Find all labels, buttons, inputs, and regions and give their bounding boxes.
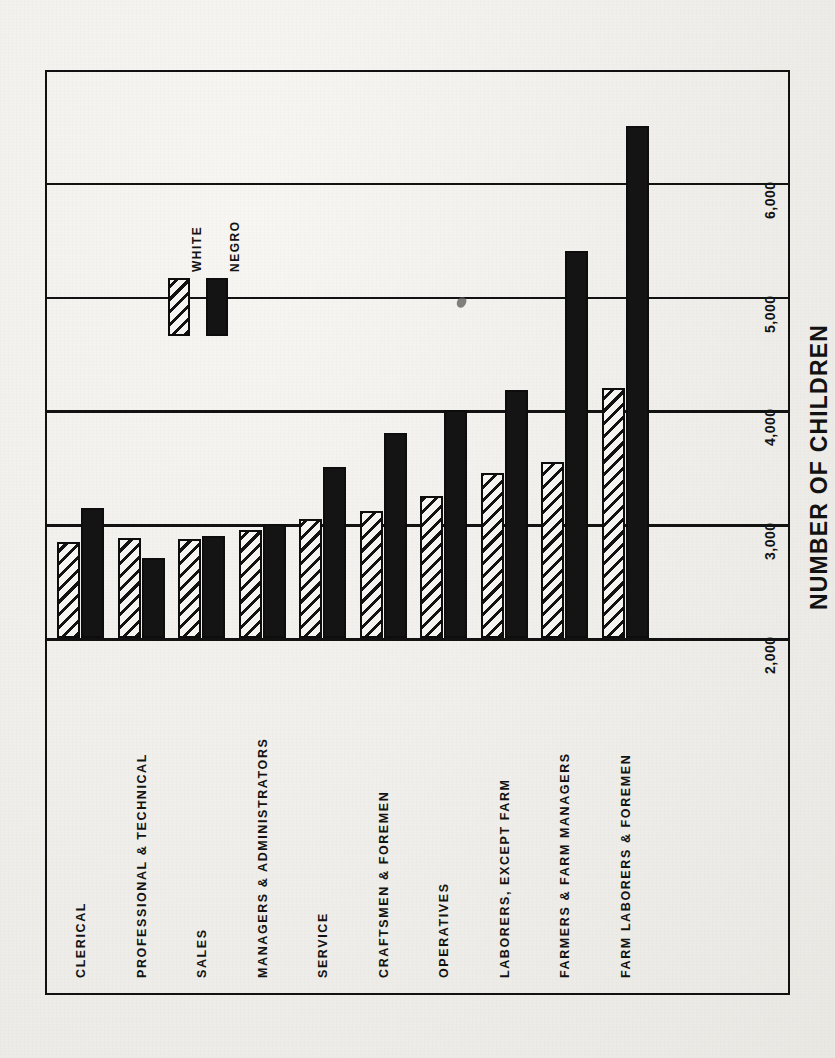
bar-chart-figure: CLERICALPROFESSIONAL & TECHNICALSALESMAN… bbox=[0, 0, 835, 1058]
bar-negro-laborers-except-farm bbox=[505, 390, 528, 638]
category-label-sales: SALES bbox=[195, 928, 209, 978]
plot-area bbox=[47, 72, 788, 993]
bar-negro-operatives bbox=[444, 410, 467, 638]
category-label-service: SERVICE bbox=[316, 912, 330, 978]
bar-white-farmers-farm-managers bbox=[541, 462, 564, 638]
bar-negro-craftsmen-foremen bbox=[384, 433, 407, 638]
bar-white-clerical bbox=[57, 542, 80, 638]
bar-white-managers-administrators bbox=[239, 530, 262, 638]
bar-negro-professional-technical bbox=[142, 558, 165, 638]
category-label-farmers-farm-managers: FARMERS & FARM MANAGERS bbox=[558, 752, 572, 978]
category-label-craftsmen-foremen: CRAFTSMEN & FOREMEN bbox=[377, 791, 391, 978]
legend-swatch-white bbox=[168, 278, 190, 336]
tick-label-6000: 6,000 bbox=[762, 181, 778, 219]
bar-negro-managers-administrators bbox=[263, 524, 286, 638]
tick-label-3000: 3,000 bbox=[762, 523, 778, 561]
bar-white-laborers-except-farm bbox=[481, 473, 504, 638]
tick-label-5000: 5,000 bbox=[762, 295, 778, 333]
legend-label-negro: NEGRO bbox=[228, 220, 242, 272]
value-axis-title: NUMBER OF CHILDREN bbox=[806, 324, 833, 610]
bar-white-service bbox=[299, 519, 322, 638]
category-label-farm-laborers-foremen: FARM LABORERS & FOREMEN bbox=[619, 754, 633, 978]
bar-white-craftsmen-foremen bbox=[360, 511, 383, 638]
bar-negro-clerical bbox=[81, 508, 104, 638]
bar-white-operatives bbox=[420, 496, 443, 638]
category-label-laborers-except-farm: LABORERS, EXCEPT FARM bbox=[498, 778, 512, 978]
legend-swatch-negro bbox=[206, 278, 228, 336]
bar-white-professional-technical bbox=[118, 538, 141, 638]
bar-negro-farmers-farm-managers bbox=[565, 251, 588, 638]
tick-label-4000: 4,000 bbox=[762, 409, 778, 447]
bar-negro-sales bbox=[202, 536, 225, 638]
tick-label-2000: 2,000 bbox=[762, 636, 778, 674]
bar-negro-farm-laborers-foremen bbox=[626, 126, 649, 638]
bar-white-farm-laborers-foremen bbox=[602, 388, 625, 638]
category-label-managers-administrators: MANAGERS & ADMINISTRATORS bbox=[256, 738, 270, 978]
bar-negro-service bbox=[323, 467, 346, 638]
bar-series-container bbox=[47, 72, 788, 993]
legend-label-white: WHITE bbox=[190, 226, 204, 272]
bar-white-sales bbox=[178, 539, 201, 638]
category-label-professional-technical: PROFESSIONAL & TECHNICAL bbox=[135, 753, 149, 978]
category-label-clerical: CLERICAL bbox=[74, 902, 88, 978]
category-label-operatives: OPERATIVES bbox=[437, 882, 451, 978]
